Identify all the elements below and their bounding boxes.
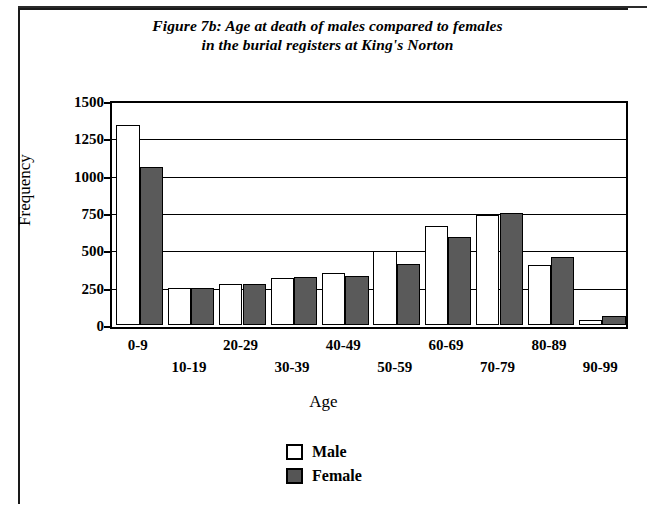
legend-label: Female <box>312 468 362 484</box>
bar-male-50-59 <box>373 251 396 325</box>
x-tick-label-50-59: 50-59 <box>355 359 435 375</box>
y-tick-label: 750 <box>44 207 104 222</box>
bar-male-60-69 <box>425 226 448 325</box>
bar-female-30-39 <box>294 277 317 325</box>
y-tick-mark <box>104 214 110 216</box>
legend-swatch-male-icon <box>286 444 303 460</box>
bar-female-10-19 <box>191 288 214 325</box>
legend-item-male: Male <box>286 441 486 463</box>
x-tick-label-0-9: 0-9 <box>98 337 178 353</box>
bar-female-0-9 <box>140 167 163 325</box>
y-axis-tick-labels: 1500125010007505002500 <box>38 0 104 511</box>
x-axis-title: Age <box>0 392 647 412</box>
x-tick-label-10-19: 10-19 <box>149 359 229 375</box>
x-tick-label-90-99: 90-99 <box>560 359 640 375</box>
y-tick-label: 1250 <box>44 132 104 147</box>
bar-female-60-69 <box>448 237 471 325</box>
y-axis-title: Frequency <box>15 130 35 250</box>
bar-male-70-79 <box>476 215 499 325</box>
bar-male-20-29 <box>219 284 242 325</box>
y-tick-label: 250 <box>44 282 104 297</box>
x-tick-label-30-39: 30-39 <box>252 359 332 375</box>
bar-female-20-29 <box>243 284 266 325</box>
bar-female-50-59 <box>397 264 420 325</box>
y-tick-label: 0 <box>44 319 104 334</box>
bar-male-0-9 <box>116 125 139 325</box>
legend-label: Male <box>312 444 347 460</box>
bar-female-40-49 <box>345 276 368 325</box>
y-tick-label: 1500 <box>44 95 104 110</box>
y-tick-mark <box>104 251 110 253</box>
bar-female-90-99 <box>602 316 625 325</box>
y-tick-mark <box>104 289 110 291</box>
y-tick-mark <box>104 102 110 104</box>
bar-female-80-89 <box>551 257 574 325</box>
x-tick-label-40-49: 40-49 <box>303 337 383 353</box>
y-tick-mark <box>104 326 110 328</box>
chart-area: Frequency 1500125010007505002500 0-910-1… <box>0 0 647 511</box>
bars-layer <box>114 105 624 325</box>
legend-item-female: Female <box>286 465 486 487</box>
bar-male-90-99 <box>579 320 602 325</box>
bar-male-10-19 <box>168 288 191 325</box>
bar-male-30-39 <box>271 278 294 325</box>
legend-swatch-female-icon <box>286 468 303 484</box>
bar-male-40-49 <box>322 273 345 325</box>
plot-frame <box>110 101 628 329</box>
x-tick-label-80-89: 80-89 <box>509 337 589 353</box>
bar-male-80-89 <box>528 265 551 325</box>
y-tick-label: 500 <box>44 244 104 259</box>
x-tick-label-70-79: 70-79 <box>458 359 538 375</box>
bar-female-70-79 <box>500 213 523 325</box>
y-tick-label: 1000 <box>44 170 104 185</box>
x-tick-label-20-29: 20-29 <box>201 337 281 353</box>
x-tick-label-60-69: 60-69 <box>406 337 486 353</box>
chart-legend: MaleFemale <box>286 441 486 489</box>
y-tick-mark <box>104 139 110 141</box>
y-tick-mark <box>104 177 110 179</box>
